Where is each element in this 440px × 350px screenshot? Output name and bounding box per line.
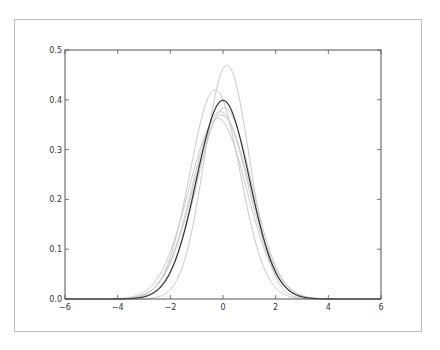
curve-sample-density-4	[65, 115, 381, 299]
y-tick-label: 0.0	[49, 295, 62, 304]
y-tick-label: 0.1	[49, 245, 62, 254]
density-curves	[65, 65, 381, 299]
x-axis: −6−4−20246	[59, 50, 383, 312]
x-tick-label: 6	[378, 303, 383, 312]
x-tick-label: 2	[273, 303, 278, 312]
y-tick-label: 0.3	[49, 146, 62, 155]
y-axis: 0.00.10.20.30.40.5	[49, 46, 381, 304]
x-tick-label: −6	[59, 303, 71, 312]
y-tick-label: 0.5	[49, 46, 62, 55]
x-tick-label: −2	[164, 303, 176, 312]
curve-sample-density-3	[65, 112, 381, 299]
chart-canvas: −6−4−20246 0.00.10.20.30.40.5	[0, 0, 440, 350]
curve-standard-normal-pdf	[65, 100, 381, 299]
y-tick-label: 0.2	[49, 195, 62, 204]
y-tick-label: 0.4	[49, 96, 62, 105]
x-tick-label: 4	[326, 303, 331, 312]
x-tick-label: −4	[112, 303, 124, 312]
plot-area	[65, 50, 381, 299]
curve-sample-density-5	[65, 118, 381, 299]
curve-sample-density-6	[65, 108, 381, 299]
x-tick-label: 0	[220, 303, 225, 312]
